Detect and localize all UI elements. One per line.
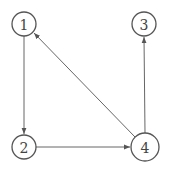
node-4-label: 4 xyxy=(141,140,150,156)
node-2: 2 xyxy=(12,135,36,159)
node-1: 1 xyxy=(12,12,36,36)
node-4: 4 xyxy=(131,133,159,161)
node-2-label: 2 xyxy=(20,140,29,156)
edge-4-to-3 xyxy=(144,37,145,133)
edge-4-to-1 xyxy=(34,33,135,137)
node-1-label: 1 xyxy=(20,17,29,33)
node-3: 3 xyxy=(132,12,156,36)
directed-graph: 1 2 3 4 xyxy=(0,0,169,171)
node-3-label: 3 xyxy=(140,17,149,33)
